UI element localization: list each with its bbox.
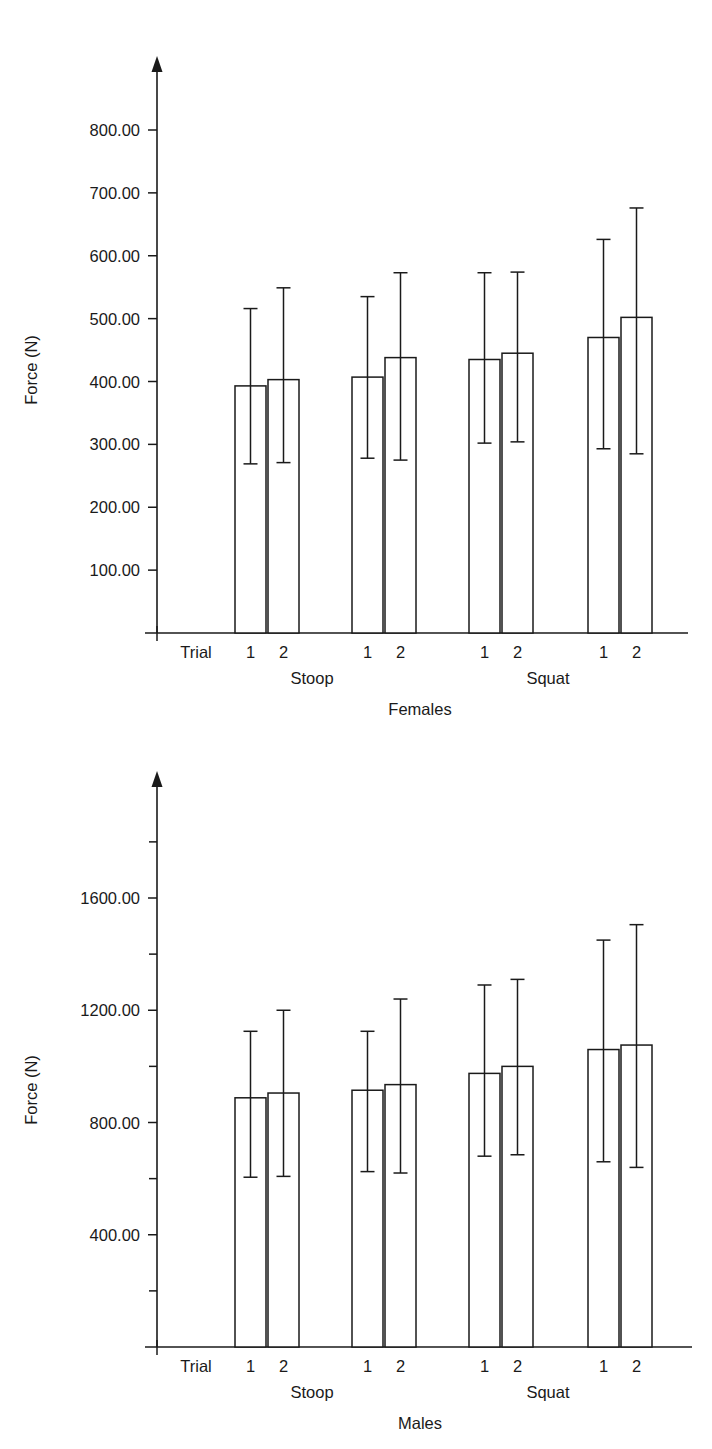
x-axis-category-label: 1 xyxy=(363,1357,372,1375)
trial-row-label: Trial xyxy=(180,1357,211,1375)
x-axis-category-label: 1 xyxy=(480,1357,489,1375)
x-axis-category-label: 2 xyxy=(279,1357,288,1375)
panel-label: Males xyxy=(398,1414,442,1432)
chart-panel-males: 400.00800.001200.001600.00Force (N)12121… xyxy=(0,740,712,1449)
x-axis-category-label: 2 xyxy=(632,643,641,661)
y-axis-tick-label: 1600.00 xyxy=(80,889,140,907)
panel-label: Females xyxy=(388,700,451,718)
x-axis-category-label: 2 xyxy=(396,1357,405,1375)
x-axis-category-label: 1 xyxy=(599,643,608,661)
y-axis-arrow-icon xyxy=(152,771,163,787)
x-axis-category-label: 2 xyxy=(513,1357,522,1375)
x-axis-group-label: Stoop xyxy=(290,669,333,687)
x-axis-category-label: 1 xyxy=(363,643,372,661)
y-axis-tick-label: 400.00 xyxy=(90,1226,140,1244)
x-axis-group-label: Squat xyxy=(526,1383,570,1401)
x-axis-category-label: 1 xyxy=(246,1357,255,1375)
females-bar-chart: 100.00200.00300.00400.00500.00600.00700.… xyxy=(0,0,712,740)
y-axis-title: Force (N) xyxy=(22,1055,40,1125)
x-axis-category-label: 2 xyxy=(279,643,288,661)
chart-panel-females: 100.00200.00300.00400.00500.00600.00700.… xyxy=(0,0,712,740)
x-axis-category-label: 2 xyxy=(396,643,405,661)
y-axis-tick-label: 200.00 xyxy=(90,498,140,516)
x-axis-category-label: 2 xyxy=(632,1357,641,1375)
y-axis-tick-label: 700.00 xyxy=(90,184,140,202)
x-axis-group-label: Stoop xyxy=(290,1383,333,1401)
x-axis-category-label: 2 xyxy=(513,643,522,661)
y-axis-tick-label: 100.00 xyxy=(90,561,140,579)
y-axis-tick-label: 1200.00 xyxy=(80,1001,140,1019)
y-axis-tick-label: 500.00 xyxy=(90,310,140,328)
x-axis-category-label: 1 xyxy=(599,1357,608,1375)
trial-row-label: Trial xyxy=(180,643,211,661)
y-axis-arrow-icon xyxy=(152,56,163,72)
males-bar-chart: 400.00800.001200.001600.00Force (N)12121… xyxy=(0,740,712,1449)
y-axis-title: Force (N) xyxy=(22,335,40,405)
y-axis-tick-label: 600.00 xyxy=(90,247,140,265)
y-axis-tick-label: 800.00 xyxy=(90,1114,140,1132)
y-axis-tick-label: 300.00 xyxy=(90,435,140,453)
y-axis-tick-label: 400.00 xyxy=(90,373,140,391)
y-axis-tick-label: 800.00 xyxy=(90,121,140,139)
x-axis-group-label: Squat xyxy=(526,669,570,687)
x-axis-category-label: 1 xyxy=(480,643,489,661)
x-axis-category-label: 1 xyxy=(246,643,255,661)
